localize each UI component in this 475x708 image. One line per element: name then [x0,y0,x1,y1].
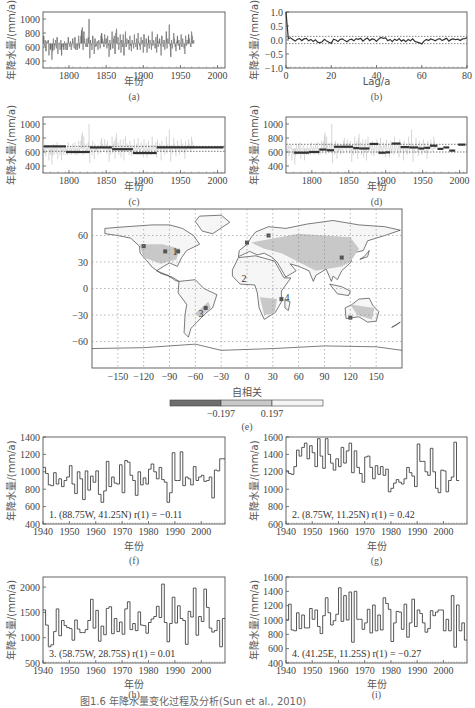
x-tick-label: 1990 [165,665,185,676]
precip-step-line [286,588,467,647]
x-tick-label: 1950 [59,526,79,537]
x-tick-label: −150 [108,371,129,382]
panel-label: (g) [371,555,383,567]
y-tick-label: 30 [78,257,88,268]
site-marker: 1 [173,246,178,257]
y-tick-label: −30 [72,310,88,321]
site-annotation: 4. (41.25E, 11.25S) r(1) = −0.27 [292,648,421,660]
y-axis-label: 年降水量/(mm/a) [5,580,17,660]
chart-panel-h: 5001000150020001940195019601970198019902… [5,577,225,701]
y-tick-label: 1000 [20,466,40,477]
chart-panel-e: −150−120−90−60−300306090120150−60−300306… [72,209,402,433]
precip-step-line [286,439,459,493]
x-tick-label: 1940 [276,665,296,676]
site-annotation: 1. (88.75W, 41.25N) r(1) = −0.11 [49,509,182,521]
x-tick-label: 1970 [112,665,132,676]
y-tick-label: 0.5 [271,21,284,32]
y-tick-label: 600 [268,643,283,654]
x-tick-label: 30 [268,371,278,382]
plot-frame [286,12,467,68]
y-axis-label: 年降水量/(mm/a) [5,440,17,520]
land-outline [360,251,370,260]
y-tick-label: 1500 [20,607,40,618]
x-axis-label: 自相关 [232,386,262,398]
y-tick-label: 1000 [263,484,283,495]
y-tick-label: 800 [268,629,283,640]
y-tick-label: 0.0 [271,35,284,46]
x-tick-label: 2000 [191,665,211,676]
x-tick-label: 1960 [328,665,348,676]
x-tick-label: 1950 [170,70,190,81]
x-tick-label: −120 [133,371,154,382]
x-tick-label: 1850 [339,175,359,186]
x-tick-label: 1850 [96,175,116,186]
panel-label: (c) [128,196,139,208]
x-tick-label: 20 [326,70,336,81]
x-tick-label: 0 [245,371,250,382]
x-tick-label: 1800 [302,175,322,186]
chart-panel-i: 4006008001000120014001600194019501960197… [248,572,467,702]
y-tick-label: 1000 [20,14,40,25]
x-tick-label: 1800 [59,175,79,186]
x-tick-label: 1980 [381,526,401,537]
y-tick-label: 2000 [20,582,40,593]
x-tick-label: 1800 [59,70,79,81]
site-annotation: 3. (58.75W, 28.75S) r(1) = 0.01 [49,648,175,660]
x-tick-label: 1940 [33,665,53,676]
y-tick-label: 1.0 [271,7,284,18]
panel-label: (b) [371,91,383,103]
x-tick-label: 1960 [328,526,348,537]
x-axis-label: 年份 [124,540,144,552]
negative-cell [163,249,167,253]
precip-step-line [43,584,225,647]
y-tick-label: 600 [25,147,40,158]
y-tick-label: 1000 [263,119,283,130]
x-tick-label: 2000 [450,175,470,186]
land-outline [195,215,230,234]
colorbar-segment [221,400,272,406]
y-tick-label: 1400 [263,586,283,597]
x-tick-label: 1950 [302,526,322,537]
y-tick-label: 400 [268,161,283,172]
colorbar-label: 0.197 [261,408,284,419]
site-annotation: 2. (8.75W, 11.25N) r(1) = 0.42 [292,509,415,521]
panel-label: (d) [371,196,383,208]
y-tick-label: 1200 [263,600,283,611]
y-tick-label: 800 [25,484,40,495]
y-axis-label: 年降水量/(mm/a) [248,105,260,185]
x-tick-label: 1950 [170,175,190,186]
y-tick-label: 800 [268,501,283,512]
x-tick-label: 1950 [413,175,433,186]
x-tick-label: 2000 [433,665,453,676]
chart-panel-d: 400600800100018001850190019502000年降水量/(m… [248,105,470,208]
x-tick-label: 1990 [407,526,427,537]
x-tick-label: 2000 [208,70,228,81]
x-tick-label: 60 [417,70,427,81]
x-tick-label: −90 [162,371,178,382]
land-outline [330,284,351,296]
y-tick-label: 1400 [263,449,283,460]
panel-label: (e) [241,421,252,433]
x-tick-label: 1950 [302,665,322,676]
y-tick-label: −1.0 [265,63,283,74]
y-tick-label: 600 [268,147,283,158]
panel-label: (h) [128,689,140,701]
x-tick-label: −60 [188,371,204,382]
x-axis-label: 年份 [124,75,144,87]
y-axis-label: 年降水量/(mm/a) [5,0,17,80]
precip-step-line [43,452,225,503]
negative-cell [340,256,344,260]
y-tick-label: 800 [268,133,283,144]
x-tick-label: 2000 [208,175,228,186]
y-tick-label: 400 [25,161,40,172]
x-tick-label: 1960 [86,665,106,676]
x-tick-label: 1980 [381,665,401,676]
x-axis-label: Lag/a [363,76,391,87]
y-axis-label: 年降水量/(mm/a) [5,105,17,185]
y-axis-label: 年降水量/(mm/a) [248,440,260,520]
x-tick-label: 1850 [96,70,116,81]
chart-panel-c: 400600800100018001850190019502000年降水量/(m… [5,105,228,208]
x-tick-label: 80 [462,70,472,81]
x-tick-label: 1980 [139,665,159,676]
